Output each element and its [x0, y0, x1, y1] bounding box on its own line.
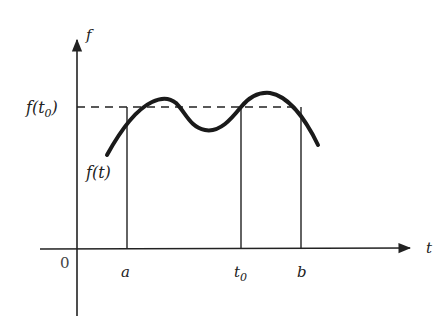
tick-label-b: b — [297, 263, 307, 281]
x-axis — [40, 248, 410, 249]
tick-label-t0: t0 — [234, 263, 247, 284]
x-axis-label: t — [426, 239, 433, 257]
diagram-canvas: f t 0 f(t0) f(t) a t0 b — [0, 0, 447, 331]
origin-label: 0 — [60, 254, 70, 272]
tick-label-a: a — [121, 263, 130, 281]
level-label: f(t0) — [25, 98, 58, 120]
y-axis-label: f — [85, 26, 94, 44]
function-curve — [107, 93, 318, 155]
curve-label: f(t) — [85, 163, 111, 182]
